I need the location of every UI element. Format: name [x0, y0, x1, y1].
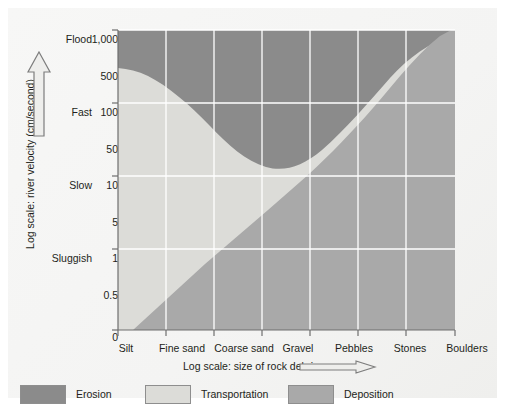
chart-page: Log scale: river velocity (cm/second) Fl… — [0, 0, 505, 406]
x-axis-ticks — [118, 330, 455, 336]
y-axis-ticks — [112, 30, 118, 330]
chart-plot-area — [0, 0, 505, 406]
